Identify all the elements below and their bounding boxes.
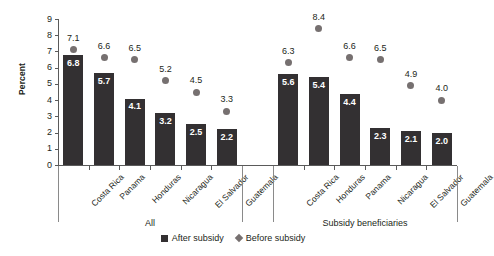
bar-value-label: 2.0 [428, 137, 456, 146]
bar[interactable] [63, 55, 83, 165]
x-tick-mark [396, 166, 397, 170]
data-point-marker[interactable] [407, 82, 414, 89]
bar[interactable] [278, 74, 298, 165]
x-category-label: Panama [363, 172, 392, 201]
legend-item-before-subsidy[interactable]: Before subsidy [236, 233, 306, 243]
marker-value-label: 4.0 [428, 84, 456, 93]
x-category-label: El Salvador [428, 172, 466, 210]
y-tick-label: 8 [30, 31, 52, 40]
x-tick-mark [426, 166, 427, 170]
y-tick-label: 4 [30, 96, 52, 105]
bar[interactable] [94, 73, 114, 165]
marker-value-label: 6.5 [366, 44, 394, 53]
data-point-marker[interactable] [285, 59, 292, 66]
x-tick-mark [365, 166, 366, 170]
data-point-marker[interactable] [101, 54, 108, 61]
y-tick-label: 3 [30, 112, 52, 121]
x-tick-mark [150, 166, 151, 170]
x-tick-mark [89, 166, 90, 170]
y-tick-label: 6 [30, 63, 52, 72]
bar-value-label: 3.2 [151, 117, 179, 126]
group-separator [58, 166, 59, 222]
bar-value-label: 4.4 [336, 98, 364, 107]
x-tick-mark [181, 166, 182, 170]
data-point-marker[interactable] [438, 97, 445, 104]
data-point-marker[interactable] [162, 77, 169, 84]
y-tick-label: 1 [30, 144, 52, 153]
y-tick-label: 9 [30, 15, 52, 24]
marker-value-label: 5.2 [151, 65, 179, 74]
marker-value-label: 7.1 [59, 34, 87, 43]
group-separator [242, 166, 243, 222]
data-point-marker[interactable] [223, 108, 230, 115]
data-point-marker[interactable] [193, 89, 200, 96]
bar-value-label: 2.2 [213, 133, 241, 142]
square-marker-icon [161, 235, 168, 242]
y-tick-label: 0 [30, 161, 52, 170]
x-category-label: Costa Rica [304, 172, 340, 208]
group-title: All [58, 218, 242, 228]
marker-value-label: 6.6 [90, 42, 118, 51]
bar-value-label: 2.3 [366, 132, 394, 141]
marker-value-label: 3.3 [213, 95, 241, 104]
y-tick-label: 2 [30, 128, 52, 137]
x-tick-mark [304, 166, 305, 170]
x-category-label: Honduras [150, 172, 183, 205]
x-axis-line [58, 165, 457, 166]
x-category-label: Nicaragua [181, 172, 215, 206]
bar-value-label: 2.5 [182, 128, 210, 137]
bar[interactable] [309, 77, 329, 165]
bar-value-label: 4.1 [121, 102, 149, 111]
marker-value-label: 6.3 [274, 47, 302, 56]
bar-value-label: 5.6 [274, 78, 302, 87]
bar-value-label: 6.8 [59, 59, 87, 68]
data-point-marker[interactable] [377, 56, 384, 63]
plot-area: 6.87.15.76.64.16.53.25.22.54.52.23.35.66… [58, 19, 457, 165]
data-point-marker[interactable] [70, 46, 77, 53]
legend-item-after-subsidy[interactable]: After subsidy [161, 233, 224, 243]
legend-label-before-subsidy: Before subsidy [246, 233, 306, 243]
diamond-marker-icon [234, 234, 242, 242]
marker-value-label: 4.5 [182, 76, 210, 85]
marker-value-label: 6.6 [336, 42, 364, 51]
marker-value-label: 4.9 [397, 70, 425, 79]
bar-value-label: 2.1 [397, 135, 425, 144]
y-axis-title: Percent [17, 39, 27, 119]
legend-label-after-subsidy: After subsidy [172, 233, 224, 243]
y-tick-label: 5 [30, 79, 52, 88]
bar-value-label: 5.7 [90, 77, 118, 86]
group-title: Subsidy beneficiaries [273, 218, 457, 228]
data-point-marker[interactable] [315, 25, 322, 32]
bar-value-label: 5.4 [305, 81, 333, 90]
data-point-marker[interactable] [131, 56, 138, 63]
x-category-label: Nicaragua [396, 172, 430, 206]
marker-value-label: 8.4 [305, 13, 333, 22]
marker-value-label: 6.5 [121, 44, 149, 53]
x-tick-mark [211, 166, 212, 170]
group-separator [457, 166, 458, 222]
x-tick-mark [334, 166, 335, 170]
chart-legend: After subsidy Before subsidy [0, 233, 466, 243]
x-tick-mark [119, 166, 120, 170]
y-tick-label: 7 [30, 47, 52, 56]
data-point-marker[interactable] [346, 54, 353, 61]
group-separator [273, 166, 274, 222]
